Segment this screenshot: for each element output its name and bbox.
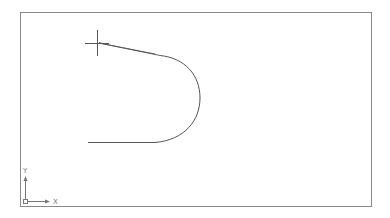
drawing-canvas[interactable]: Y X [0,0,390,218]
semicircle-arc[interactable] [155,56,200,143]
ucs-icon: Y X [22,167,58,206]
ucs-x-label: X [53,198,58,206]
ucs-y-label: Y [22,167,28,175]
crosshair-icon [85,30,109,56]
ucs-origin-square-icon [24,200,28,204]
tapered-sliver[interactable] [99,43,160,56]
